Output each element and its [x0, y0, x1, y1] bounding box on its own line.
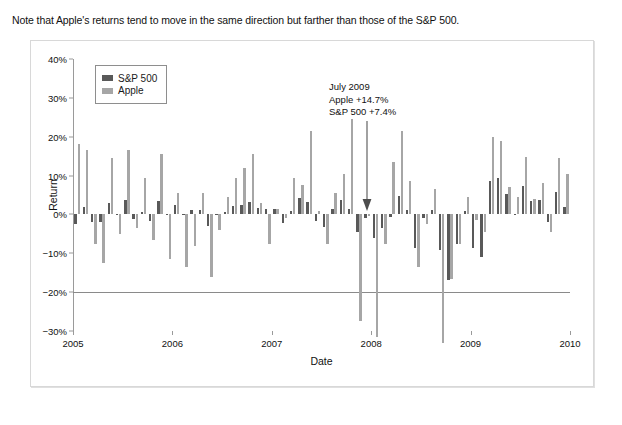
bar	[484, 214, 486, 231]
x-tick-label: 2008	[361, 338, 382, 349]
bar	[111, 158, 113, 214]
chart-legend: S&P 500Apple	[95, 65, 167, 104]
bar	[149, 214, 151, 221]
y-tick-label: 10%	[48, 170, 67, 181]
bar	[218, 214, 220, 230]
bar	[315, 214, 317, 221]
x-tick-mark	[73, 331, 74, 335]
bar	[356, 214, 358, 231]
legend-item-label: Apple	[118, 85, 144, 96]
bar	[177, 193, 179, 214]
bar	[116, 214, 118, 215]
bar	[78, 144, 80, 214]
annotation-arrow-icon	[360, 121, 374, 213]
bar	[566, 174, 568, 215]
bar	[102, 214, 104, 263]
bar	[538, 200, 540, 214]
bar	[550, 214, 552, 231]
bar	[450, 214, 452, 278]
annotation-line-2: Apple +14.7%	[329, 94, 396, 107]
legend-swatch-icon	[102, 88, 113, 94]
legend-item: S&P 500	[102, 73, 157, 84]
bar	[273, 209, 275, 214]
bar	[381, 214, 383, 228]
bar	[508, 187, 510, 214]
bar	[306, 202, 308, 215]
bar	[359, 214, 361, 321]
bar	[298, 198, 300, 215]
bar	[310, 131, 312, 215]
bar	[136, 214, 138, 228]
bar	[434, 189, 436, 214]
bar	[257, 208, 259, 214]
bar	[414, 214, 416, 247]
bar	[376, 214, 378, 336]
y-tick-label: −30%	[42, 326, 67, 337]
bar	[475, 214, 477, 220]
bar	[409, 181, 411, 214]
bar	[124, 200, 126, 214]
bar	[318, 211, 320, 215]
bar	[265, 209, 267, 214]
bar	[401, 131, 403, 215]
bar	[442, 214, 444, 342]
bar	[459, 214, 461, 243]
bar	[558, 158, 560, 214]
bar	[127, 150, 129, 214]
bar	[293, 178, 295, 215]
bar	[500, 141, 502, 215]
x-tick-label: 2007	[261, 338, 282, 349]
y-axis-title: Return	[47, 179, 59, 211]
bar	[331, 209, 333, 214]
bar	[141, 212, 143, 215]
bar	[351, 119, 353, 214]
legend-swatch-icon	[102, 75, 113, 81]
y-tick-label: −10%	[42, 248, 67, 259]
bar	[224, 212, 226, 214]
bar	[152, 214, 154, 239]
y-tick-label: 30%	[48, 92, 67, 103]
bar	[323, 214, 325, 226]
bar	[472, 214, 474, 247]
bar	[398, 196, 400, 215]
bar	[160, 154, 162, 214]
bar	[252, 154, 254, 214]
bar	[290, 211, 292, 215]
bar	[533, 199, 535, 215]
bar	[364, 214, 366, 217]
bar	[431, 210, 433, 215]
bar	[343, 174, 345, 215]
bar	[119, 214, 121, 233]
bar	[74, 214, 76, 224]
bar	[169, 214, 171, 259]
bar	[301, 185, 303, 214]
bar	[94, 214, 96, 243]
bar	[210, 214, 212, 276]
bar	[392, 162, 394, 214]
bar	[480, 214, 482, 257]
bar	[542, 183, 544, 214]
y-tick-label: 20%	[48, 131, 67, 142]
bar	[285, 214, 287, 218]
bar	[517, 197, 519, 214]
bar	[83, 207, 85, 214]
bar	[166, 214, 168, 215]
bar	[456, 214, 458, 243]
bar	[389, 214, 391, 216]
x-tick-label: 2005	[62, 338, 83, 349]
bar	[202, 193, 204, 214]
x-tick-mark	[570, 331, 571, 335]
bar	[497, 178, 499, 215]
annotation-line-3: S&P 500 +7.4%	[329, 106, 396, 119]
bar	[276, 209, 278, 215]
bar	[406, 210, 408, 214]
bar	[525, 157, 527, 214]
bar	[243, 168, 245, 215]
legend-item-label: S&P 500	[118, 73, 157, 84]
bar	[547, 214, 549, 222]
annotation-line-1: July 2009	[329, 81, 396, 94]
bar	[182, 214, 184, 215]
bar	[439, 214, 441, 249]
bar	[260, 203, 262, 215]
bar	[194, 214, 196, 245]
